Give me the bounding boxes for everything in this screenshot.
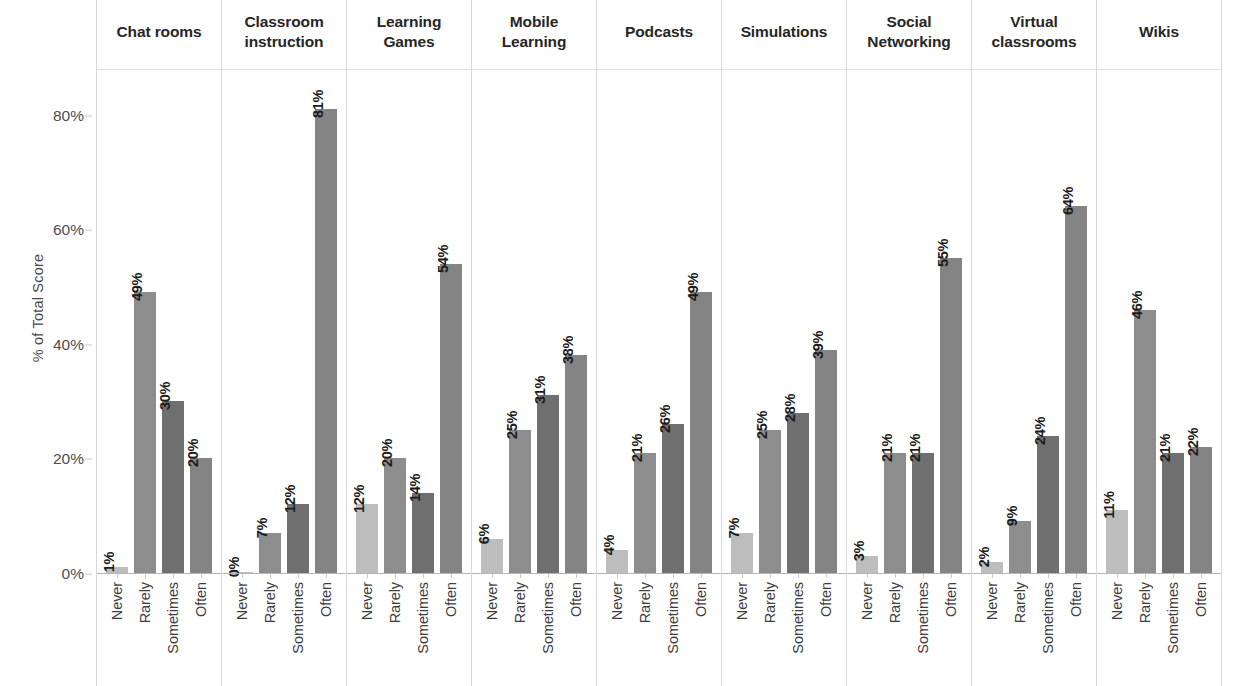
facet-panel-title: Simulations <box>741 22 828 41</box>
bar[interactable]: 64% <box>1065 206 1087 573</box>
bar[interactable]: 31% <box>537 395 559 573</box>
x-axis-tick: Often <box>1062 574 1090 686</box>
x-axis-tick-label: Never <box>859 582 875 620</box>
x-axis-tick-label: Sometimes <box>915 582 931 654</box>
bar[interactable]: 46% <box>1134 310 1156 573</box>
bar[interactable]: 22% <box>1190 447 1212 573</box>
bar[interactable]: 6% <box>481 539 503 573</box>
x-axis-tick-label: Often <box>693 582 709 617</box>
bar[interactable]: 25% <box>509 430 531 573</box>
x-axis-tick: Sometimes <box>1034 574 1062 686</box>
bar[interactable]: 54% <box>440 264 462 573</box>
bar[interactable]: 25% <box>759 430 781 573</box>
x-axis-tick-mark <box>492 574 493 578</box>
x-axis-tick: Often <box>187 574 215 686</box>
bar[interactable]: 7% <box>731 533 753 573</box>
y-axis-tick-mark <box>85 115 92 116</box>
bar[interactable]: 21% <box>1162 453 1184 573</box>
x-axis-tick-mark <box>1145 574 1146 578</box>
x-axis-tick-mark <box>270 574 271 578</box>
facet-panel-title: MobileLearning <box>502 12 567 51</box>
bar-slot: 25% <box>506 70 534 573</box>
facet-panel: Chat rooms1%49%30%20%NeverRarelySometime… <box>96 0 221 686</box>
bar-value-label: 7% <box>254 518 270 538</box>
bar[interactable]: 7% <box>259 533 281 573</box>
bar[interactable]: 21% <box>634 453 656 573</box>
x-axis-tick-mark <box>867 574 868 578</box>
x-axis-tick-label: Rarely <box>137 582 153 623</box>
x-axis-tick-mark <box>951 574 952 578</box>
x-axis-tick: Often <box>562 574 590 686</box>
x-axis-labels: NeverRarelySometimesOften <box>972 574 1096 686</box>
bar-slot: 26% <box>659 70 687 573</box>
bar[interactable]: 9% <box>1009 521 1031 573</box>
bar[interactable]: 2% <box>981 562 1003 573</box>
bar-group: 6%25%31%38% <box>472 70 596 573</box>
x-axis-tick-mark <box>992 574 993 578</box>
bar[interactable]: 21% <box>912 453 934 573</box>
bar[interactable]: 28% <box>787 413 809 573</box>
x-axis-tick: Never <box>603 574 631 686</box>
bar-value-label: 20% <box>379 439 395 467</box>
y-axis-tick-mark <box>85 574 92 575</box>
x-axis-tick: Never <box>103 574 131 686</box>
bar-value-label: 12% <box>351 485 367 513</box>
x-axis-tick-label: Sometimes <box>665 582 681 654</box>
bar[interactable]: 21% <box>884 453 906 573</box>
x-axis-tick-label: Often <box>568 582 584 617</box>
bar-value-label: 7% <box>726 518 742 538</box>
x-axis-tick: Rarely <box>1006 574 1034 686</box>
bar-value-label: 39% <box>810 331 826 359</box>
facet-panel-title: SocialNetworking <box>867 12 950 51</box>
x-axis-tick-mark <box>242 574 243 578</box>
x-axis-tick-mark <box>395 574 396 578</box>
x-axis-tick-label: Rarely <box>637 582 653 623</box>
x-axis-tick-mark <box>520 574 521 578</box>
bar[interactable]: 12% <box>287 504 309 573</box>
bar-value-label: 55% <box>935 239 951 267</box>
bar[interactable]: 24% <box>1037 436 1059 573</box>
bar-value-label: 12% <box>282 485 298 513</box>
x-axis-tick-label: Often <box>193 582 209 617</box>
bar[interactable]: 39% <box>815 350 837 573</box>
bar-slot: 11% <box>1103 70 1131 573</box>
x-axis-tick-label: Sometimes <box>290 582 306 654</box>
x-axis-tick-mark <box>701 574 702 578</box>
bar-slot: 31% <box>534 70 562 573</box>
bar[interactable]: 12% <box>356 504 378 573</box>
x-axis-tick: Sometimes <box>784 574 812 686</box>
bar[interactable]: 11% <box>1106 510 1128 573</box>
bar-slot: 6% <box>478 70 506 573</box>
x-axis-tick-label: Rarely <box>387 582 403 623</box>
bar[interactable]: 38% <box>565 355 587 573</box>
x-axis-tick-label: Rarely <box>262 582 278 623</box>
bar[interactable]: 81% <box>315 109 337 573</box>
bar-slot: 28% <box>784 70 812 573</box>
bar[interactable]: 14% <box>412 493 434 573</box>
bar-value-label: 22% <box>1185 428 1201 456</box>
bar-group: 0%7%12%81% <box>222 70 346 573</box>
bar[interactable]: 49% <box>690 292 712 573</box>
bar[interactable]: 49% <box>134 292 156 573</box>
bar[interactable]: 20% <box>190 458 212 573</box>
bar-value-label: 21% <box>907 434 923 462</box>
bar-slot: 14% <box>409 70 437 573</box>
facet-panel: Podcasts4%21%26%49%NeverRarelySometimesO… <box>596 0 721 686</box>
bar[interactable]: 20% <box>384 458 406 573</box>
x-axis-tick: Rarely <box>1131 574 1159 686</box>
bar[interactable]: 30% <box>162 401 184 573</box>
bar[interactable]: 26% <box>662 424 684 573</box>
bar-slot: 49% <box>687 70 715 573</box>
plot-area: 3%21%21%55% <box>847 70 971 574</box>
bar[interactable]: 3% <box>856 556 878 573</box>
faceted-bar-chart: % of Total Score 0%20%40%60%80% Chat roo… <box>0 0 1233 686</box>
x-axis-tick-label: Often <box>818 582 834 617</box>
bar[interactable]: 4% <box>606 550 628 573</box>
facet-panel-title: Chat rooms <box>116 22 201 41</box>
y-axis-ticks: 0%20%40%60%80% <box>0 0 96 686</box>
bar[interactable]: 55% <box>940 258 962 573</box>
facet-panel-header: Virtualclassrooms <box>972 0 1096 70</box>
bar-slot: 12% <box>284 70 312 573</box>
bar-value-label: 30% <box>157 382 173 410</box>
bar-slot: 12% <box>353 70 381 573</box>
